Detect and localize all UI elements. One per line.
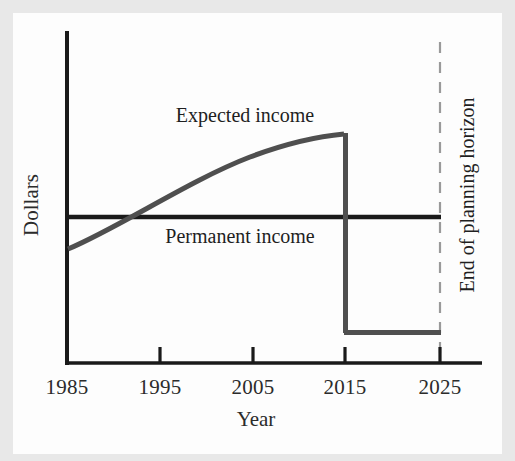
x-tick-label-2025: 2025 xyxy=(419,375,462,400)
x-tick-label-1995: 1995 xyxy=(139,375,182,400)
x-tick-label-1985: 1985 xyxy=(46,375,89,400)
end-of-planning-horizon-label: End of planning horizon xyxy=(456,98,479,293)
x-axis-ticks xyxy=(160,347,440,363)
x-tick-label-2015: 2015 xyxy=(324,375,367,400)
figure-root: 1985 1995 2005 2015 2025 Year Dollars Ex… xyxy=(0,0,515,461)
x-axis-title: Year xyxy=(237,407,276,432)
x-tick-label-2005: 2005 xyxy=(232,375,275,400)
y-axis-title: Dollars xyxy=(19,174,44,236)
permanent-income-label: Permanent income xyxy=(165,225,314,248)
expected-income-label: Expected income xyxy=(176,104,314,127)
